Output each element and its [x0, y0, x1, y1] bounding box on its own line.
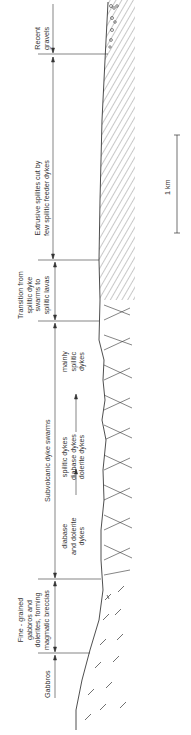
label-subvolcanic-dyke-swarms: Subvolcanic dyke swarms [44, 419, 53, 502]
label-recent-gravels: Recentgravels [34, 27, 51, 50]
label-transition: Transition fromspilitic dyke swarms tosp… [17, 271, 51, 319]
label-gabbros: Gabbros [44, 670, 53, 698]
label-diabase-dolerite-dykes: diabase and dolerite dykes [61, 517, 87, 555]
label-fine-grained-gabbros: Fine - grainedgabbros and dolerites, for… [17, 590, 51, 650]
scale-bar [174, 135, 180, 233]
gabbro-symbols [85, 586, 126, 720]
label-scale-bar: 1 km [164, 179, 173, 195]
label-mainly-spilitic-dykes: mainly spilitic dykes [61, 351, 87, 372]
label-spilitic-diabase-dolerite: spilitic dykes diabase dykes dolerite dy… [61, 434, 87, 480]
label-extrusive-spilites: Extrusive spilites cut byfew spilitic fe… [34, 160, 51, 236]
